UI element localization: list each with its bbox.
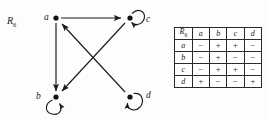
row-header-b: b: [175, 52, 193, 64]
cell-a-b: +: [209, 40, 226, 52]
cell-c-c: +: [227, 64, 244, 76]
figure-root: R6 a c b d R6 a b c d a − + +: [0, 0, 269, 120]
table-row: d + − − +: [175, 76, 262, 88]
relation-matrix-panel: R6 a b c d a − + + − b − +: [174, 27, 262, 88]
node-b: [53, 94, 58, 99]
relation-name-label: R6: [7, 16, 16, 29]
cell-d-c: −: [227, 76, 244, 88]
relation-matrix-table: R6 a b c d a − + + − b − +: [174, 27, 262, 88]
matrix-corner-header: R6: [175, 28, 193, 40]
node-label-c: c: [146, 15, 150, 25]
cell-b-b: +: [209, 52, 226, 64]
cell-c-d: −: [244, 64, 261, 76]
cell-b-d: −: [244, 52, 261, 64]
self-loop-b: [46, 100, 61, 114]
column-header-c: c: [227, 28, 244, 40]
node-label-d: d: [146, 91, 151, 101]
cell-b-c: −: [227, 52, 244, 64]
cell-d-b: −: [209, 76, 226, 88]
node-c: [127, 15, 132, 20]
cell-d-d: +: [244, 76, 261, 88]
table-header-row: R6 a b c d: [175, 28, 262, 40]
row-header-d: d: [175, 76, 193, 88]
directed-graph-panel: R6 a c b d: [0, 0, 168, 120]
table-row: b − + − −: [175, 52, 262, 64]
column-header-d: d: [244, 28, 261, 40]
graph-canvas: [0, 0, 168, 120]
self-loop-c: [132, 10, 145, 24]
node-a: [53, 15, 58, 20]
column-header-b: b: [209, 28, 226, 40]
column-header-a: a: [192, 28, 209, 40]
cell-b-a: −: [192, 52, 209, 64]
edge-c-to-b: [62, 23, 125, 91]
cell-a-c: +: [227, 40, 244, 52]
node-label-b: b: [36, 92, 41, 102]
cell-a-a: −: [192, 40, 209, 52]
row-header-a: a: [175, 40, 193, 52]
node-d: [127, 94, 132, 99]
cell-d-a: +: [192, 76, 209, 88]
edge-d-to-a: [62, 24, 125, 92]
table-row: c − + + −: [175, 64, 262, 76]
table-row: a − + + −: [175, 40, 262, 52]
cell-c-a: −: [192, 64, 209, 76]
cell-c-b: +: [209, 64, 226, 76]
cell-a-d: −: [244, 40, 261, 52]
row-header-c: c: [175, 64, 193, 76]
node-label-a: a: [44, 13, 49, 23]
